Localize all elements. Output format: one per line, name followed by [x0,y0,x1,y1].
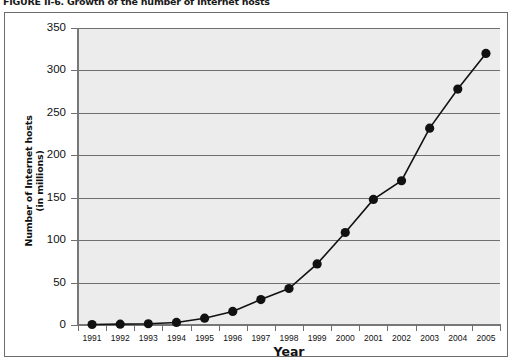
x-axis-tick [331,325,332,331]
x-axis-tick [219,325,220,331]
x-axis-tick [500,325,501,331]
x-axis-tick [191,325,192,331]
y-axis-tick-label: 50 [24,277,66,288]
gridline [78,28,500,29]
x-axis-tick [303,325,304,331]
gridline [78,155,500,156]
y-axis-tick-label: 300 [24,64,66,75]
y-axis-title-line2: (in millions) [34,150,45,211]
y-axis-tick-label: 0 [24,319,66,330]
x-axis-tick [134,325,135,331]
x-axis-tick [78,325,79,331]
x-axis-tick-label: 2005 [466,333,506,343]
gridline [78,198,500,199]
gridline [78,113,500,114]
y-axis-line [77,28,79,326]
gridline [78,283,500,284]
x-axis-tick [416,325,417,331]
x-axis-tick [247,325,248,331]
gridline [78,240,500,241]
y-axis-tick-label: 350 [24,22,66,33]
x-axis-tick [275,325,276,331]
figure-container: FIGURE II-6. Growth of the number of Int… [0,0,512,364]
x-axis-tick [162,325,163,331]
x-axis-title: Year [78,344,500,359]
x-axis-line [77,324,501,326]
x-axis-tick [106,325,107,331]
x-axis-tick [472,325,473,331]
x-axis-tick [387,325,388,331]
y-axis-title-line1: Number of Internet hosts [23,115,34,246]
line-chart: 050100150200250300350 Number of Internet… [0,0,512,364]
y-axis-title: Number of Internet hosts (in millions) [23,101,45,261]
x-axis-tick [359,325,360,331]
x-axis-tick [444,325,445,331]
plot-area [78,28,500,325]
gridline [78,70,500,71]
